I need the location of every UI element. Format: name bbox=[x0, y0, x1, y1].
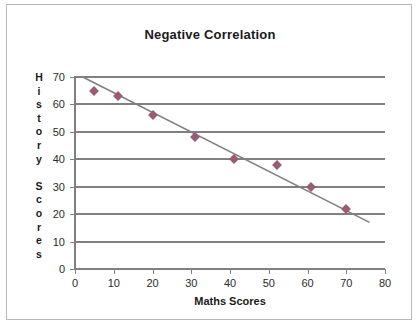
y-axis-tick bbox=[70, 214, 75, 215]
gridline bbox=[75, 186, 385, 188]
y-axis-title-letter: s bbox=[31, 248, 47, 262]
y-axis-tick-label: 70 bbox=[53, 71, 65, 83]
x-axis-tick bbox=[269, 269, 270, 274]
x-axis-tick bbox=[308, 269, 309, 274]
y-axis-tick bbox=[70, 187, 75, 188]
y-axis-tick bbox=[70, 104, 75, 105]
y-axis-title-letter: r bbox=[31, 139, 47, 153]
x-axis-title: Maths Scores bbox=[75, 295, 385, 307]
x-axis-tick-label: 70 bbox=[340, 277, 352, 289]
y-axis-title-letter: r bbox=[31, 221, 47, 235]
y-axis-tick-label: 50 bbox=[53, 126, 65, 138]
y-axis-title-letter: H bbox=[31, 71, 47, 85]
y-axis-title-letter bbox=[31, 166, 47, 180]
chart-title: Negative Correlation bbox=[7, 27, 413, 42]
y-axis-tick bbox=[70, 132, 75, 133]
y-axis-tick-label: 40 bbox=[53, 153, 65, 165]
x-axis-tick bbox=[153, 269, 154, 274]
y-axis-title-letter: i bbox=[31, 85, 47, 99]
y-axis-title-letter: e bbox=[31, 234, 47, 248]
y-axis-tick bbox=[70, 159, 75, 160]
gridline bbox=[75, 76, 385, 78]
y-axis-title-letter: y bbox=[31, 153, 47, 167]
x-axis-tick-label: 80 bbox=[379, 277, 391, 289]
x-axis-tick bbox=[230, 269, 231, 274]
y-axis-title: History Scores bbox=[31, 71, 47, 261]
x-axis-tick-label: 0 bbox=[72, 277, 78, 289]
x-axis-tick bbox=[75, 269, 76, 274]
y-axis-tick-label: 60 bbox=[53, 98, 65, 110]
chart-container: Negative Correlation History Scores 0102… bbox=[6, 4, 412, 320]
x-axis-tick bbox=[346, 269, 347, 274]
x-axis-tick bbox=[191, 269, 192, 274]
y-axis-tick bbox=[70, 242, 75, 243]
x-axis-tick-label: 10 bbox=[108, 277, 120, 289]
x-axis-tick-label: 40 bbox=[224, 277, 236, 289]
x-axis-tick-label: 60 bbox=[301, 277, 313, 289]
x-axis-tick bbox=[385, 269, 386, 274]
y-axis-title-letter: S bbox=[31, 180, 47, 194]
x-axis-tick-label: 30 bbox=[185, 277, 197, 289]
y-axis-tick-label: 10 bbox=[53, 236, 65, 248]
x-axis-tick-label: 50 bbox=[263, 277, 275, 289]
gridline bbox=[75, 241, 385, 243]
y-axis-title-letter: o bbox=[31, 207, 47, 221]
y-axis-tick-label: 0 bbox=[59, 263, 65, 275]
y-axis-title-letter: c bbox=[31, 193, 47, 207]
gridline bbox=[75, 131, 385, 133]
y-axis-tick-label: 20 bbox=[53, 208, 65, 220]
y-axis-title-letter: t bbox=[31, 112, 47, 126]
y-axis-title-letter: s bbox=[31, 98, 47, 112]
plot-area: 01020304050607001020304050607080 bbox=[75, 77, 385, 269]
gridline bbox=[75, 103, 385, 105]
x-axis-tick bbox=[114, 269, 115, 274]
y-axis-tick-label: 30 bbox=[53, 181, 65, 193]
x-axis-tick-label: 20 bbox=[146, 277, 158, 289]
y-axis-tick bbox=[70, 77, 75, 78]
gridline bbox=[75, 213, 385, 215]
y-axis-title-letter: o bbox=[31, 125, 47, 139]
